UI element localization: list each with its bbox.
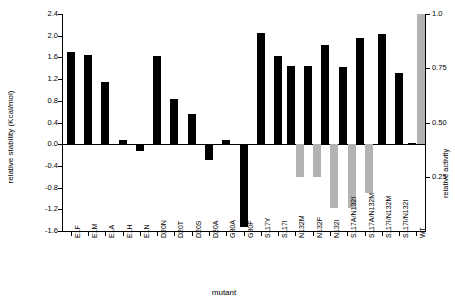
x-tick-label: E1M — [91, 224, 98, 238]
x-tick-label: E1F — [74, 225, 81, 238]
x-tick-mark — [209, 232, 210, 236]
x-tick-mark — [140, 232, 141, 236]
x-tick-mark — [313, 232, 314, 236]
y-axis-label-left-text: relative stability (Kcal/mol) — [6, 62, 15, 212]
bar-stability — [408, 143, 416, 145]
y-tick-mark-left — [58, 144, 62, 145]
x-tick-mark — [399, 232, 400, 236]
bar-activity — [330, 144, 338, 208]
x-tick-label: G30A — [229, 220, 236, 238]
x-tick-mark — [157, 232, 158, 236]
y-axis-label-right-text: relative activity — [441, 88, 450, 198]
bar-stability — [67, 52, 75, 144]
bar-stability — [101, 82, 109, 144]
x-tick-label: S117I/N132M — [385, 196, 392, 238]
bar-stability — [188, 114, 196, 144]
bar-stability — [119, 140, 127, 144]
y-tick-label-right: 1.0 — [432, 9, 455, 18]
bar-stability — [339, 67, 347, 144]
y-axis-left — [62, 14, 63, 231]
x-tick-label: N132I — [333, 219, 340, 238]
x-tick-mark — [330, 232, 331, 236]
y-tick-label-left: -1.6 — [30, 226, 58, 235]
y-tick-label-left: 0.0 — [30, 139, 58, 148]
x-tick-label: E1A — [108, 225, 115, 238]
x-tick-label: G30F — [247, 220, 254, 238]
x-tick-mark — [365, 232, 366, 236]
x-tick-mark — [88, 232, 89, 236]
bar-stability — [240, 144, 248, 226]
y-tick-mark-left — [58, 36, 62, 37]
bar-activity — [417, 14, 425, 144]
bar-stability — [395, 73, 403, 145]
bar-activity — [296, 144, 304, 177]
y-tick-label-left: 1.2 — [30, 74, 58, 83]
x-tick-label: E1N — [143, 224, 150, 238]
y-tick-label-left: -1.2 — [30, 204, 58, 213]
y-tick-mark-left — [58, 79, 62, 80]
bar-stability — [170, 99, 178, 145]
x-tick-label: S117I/N132I — [402, 200, 409, 238]
x-tick-mark — [105, 232, 106, 236]
y-tick-mark-left — [58, 188, 62, 189]
y-tick-label-left: 2.4 — [30, 9, 58, 18]
x-tick-label: D20N — [160, 220, 167, 238]
y-tick-label-right: 0.75 — [432, 63, 455, 72]
y-tick-label-left: 0.8 — [30, 96, 58, 105]
y-tick-mark-left — [58, 231, 62, 232]
bar-stability — [136, 144, 144, 151]
y-tick-mark-left — [58, 101, 62, 102]
y-tick-mark-left — [58, 57, 62, 58]
y-tick-mark-left — [58, 209, 62, 210]
x-tick-label: S117Y — [264, 218, 271, 239]
x-tick-label: N132F — [316, 217, 323, 238]
bar-stability — [378, 34, 386, 145]
x-tick-label: D20S — [195, 220, 202, 238]
bar-stability — [84, 55, 92, 144]
x-tick-mark — [192, 232, 193, 236]
x-tick-mark — [174, 232, 175, 236]
x-tick-mark — [226, 232, 227, 236]
x-tick-mark — [416, 232, 417, 236]
y-tick-label-left: 0.4 — [30, 118, 58, 127]
x-axis-label: mutant — [0, 288, 448, 297]
x-tick-mark — [295, 232, 296, 236]
y-tick-mark-left — [58, 123, 62, 124]
x-tick-label: S117I — [281, 220, 288, 238]
x-tick-label: D20T — [177, 221, 184, 238]
x-tick-label: D20A — [212, 220, 219, 238]
y-tick-mark-left — [58, 14, 62, 15]
y-tick-mark-right — [426, 123, 430, 124]
x-tick-mark — [382, 232, 383, 236]
y-tick-label-left: 2.0 — [30, 31, 58, 40]
x-tick-label: N132M — [298, 215, 305, 238]
x-tick-label: S117A/N132I — [350, 197, 357, 238]
bar-stability — [304, 66, 312, 145]
y-tick-label-left: -0.8 — [30, 183, 58, 192]
x-tick-mark — [278, 232, 279, 236]
x-tick-mark — [347, 232, 348, 236]
bar-stability — [153, 56, 161, 144]
bar-activity — [313, 144, 321, 177]
bar-activity — [365, 144, 373, 193]
y-tick-label-right: 0.25 — [432, 172, 455, 181]
bar-stability — [321, 45, 329, 144]
y-tick-mark-right — [426, 68, 430, 69]
bar-stability — [205, 144, 213, 160]
x-tick-mark — [261, 232, 262, 236]
bar-stability — [274, 56, 282, 144]
y-tick-label-left: 1.6 — [30, 52, 58, 61]
y-tick-mark-right — [426, 14, 430, 15]
bar-stability — [257, 33, 265, 144]
y-axis-label-left: relative stability (Kcal/mol) — [6, 0, 15, 62]
y-tick-mark-right — [426, 177, 430, 178]
bar-stability — [222, 140, 230, 144]
x-tick-label: WT — [419, 227, 426, 238]
x-tick-mark — [244, 232, 245, 236]
y-tick-mark-left — [58, 166, 62, 167]
bar-stability — [356, 38, 364, 144]
y-tick-label-left: -0.4 — [30, 161, 58, 170]
x-tick-mark — [71, 232, 72, 236]
x-tick-mark — [123, 232, 124, 236]
